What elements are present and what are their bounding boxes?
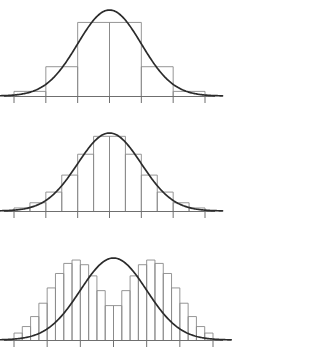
histogram-bar bbox=[180, 303, 188, 340]
histogram-bar bbox=[125, 154, 141, 211]
histogram-bar bbox=[62, 175, 78, 211]
figure-container bbox=[0, 0, 331, 362]
chart-panel-middle bbox=[0, 115, 331, 230]
histogram-plot-6-bins bbox=[0, 0, 331, 115]
histogram-bar bbox=[47, 288, 55, 340]
histogram-bar bbox=[130, 276, 138, 340]
histogram-bar bbox=[172, 288, 180, 340]
chart-panel-bottom bbox=[0, 230, 331, 362]
histogram-bar bbox=[78, 22, 110, 96]
histogram-bars bbox=[14, 136, 205, 211]
chart-panel-top bbox=[0, 0, 331, 115]
histogram-bars bbox=[14, 22, 205, 96]
histogram-bar bbox=[110, 136, 126, 211]
x-axis-ticks bbox=[14, 341, 213, 348]
histogram-bar bbox=[155, 263, 163, 340]
histogram-bar bbox=[64, 263, 72, 340]
histogram-bar bbox=[122, 291, 130, 340]
histogram-bar bbox=[39, 303, 47, 340]
histogram-bar bbox=[80, 265, 88, 340]
normal-density-curve bbox=[0, 10, 223, 96]
histogram-plot-12-bins bbox=[0, 115, 331, 230]
histogram-bar bbox=[89, 276, 97, 340]
histogram-bar bbox=[97, 291, 105, 340]
histogram-bar bbox=[138, 265, 146, 340]
histogram-bar bbox=[114, 306, 122, 340]
x-axis-ticks bbox=[14, 212, 205, 219]
histogram-bar bbox=[141, 175, 157, 211]
histogram-bar bbox=[94, 136, 110, 211]
histogram-bar bbox=[78, 154, 94, 211]
histogram-bar bbox=[105, 306, 113, 340]
normal-density-curve bbox=[0, 133, 223, 211]
x-axis-ticks bbox=[14, 97, 205, 104]
histogram-bar bbox=[55, 273, 63, 340]
histogram-plot-24-bins bbox=[0, 230, 331, 362]
histogram-bar bbox=[110, 22, 142, 96]
histogram-bar bbox=[163, 273, 171, 340]
histogram-bars bbox=[14, 260, 213, 340]
